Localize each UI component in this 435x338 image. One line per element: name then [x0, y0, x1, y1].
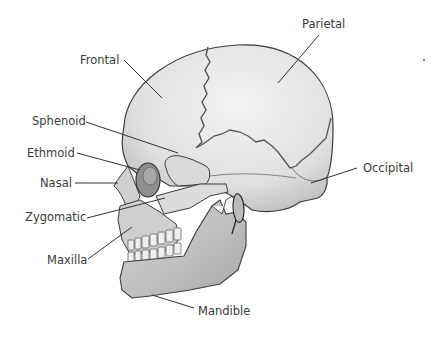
label-parietal: Parietal [302, 17, 345, 31]
label-ethmoid: Ethmoid [27, 146, 75, 160]
label-mandible: Mandible [198, 304, 250, 318]
label-frontal: Frontal [80, 53, 119, 67]
label-maxilla: Maxilla [47, 253, 87, 267]
label-nasal: Nasal [40, 176, 72, 190]
label-occipital: Occipital [363, 161, 413, 175]
label-sphenoid: Sphenoid [32, 114, 86, 128]
skull-diagram: Frontal Parietal Sphenoid Ethmoid Nasal … [0, 0, 435, 338]
label-zygomatic: Zygomatic [25, 210, 86, 224]
